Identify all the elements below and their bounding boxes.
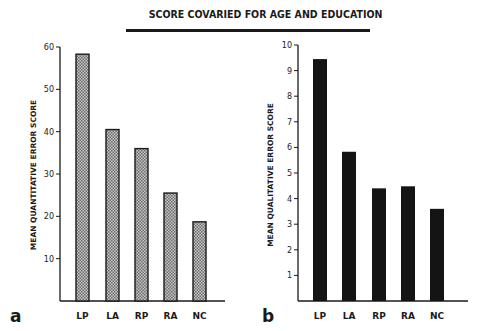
- y-axis-title-a: MEAN QUANTITATIVE ERROR SCORE: [29, 100, 38, 250]
- y-tick-label: 10: [282, 41, 292, 50]
- y-tick-label: 50: [44, 85, 54, 94]
- y-tick-label: 4: [287, 195, 292, 204]
- y-tick-label: 9: [287, 67, 292, 76]
- category-label: RA: [401, 311, 415, 321]
- y-tick-label: 40: [44, 128, 54, 137]
- bar-la: [342, 152, 356, 301]
- category-label: LA: [343, 311, 356, 321]
- y-tick-label: 8: [287, 92, 292, 101]
- y-tick-label: 1: [287, 271, 292, 280]
- category-label: NC: [430, 311, 445, 321]
- bar-ra: [164, 193, 177, 301]
- category-label: LP: [76, 311, 89, 321]
- y-tick-label: 5: [287, 169, 292, 178]
- y-axis-title-b: MEAN QUALITATIVE ERROR SCORE: [266, 103, 275, 247]
- bar-ra: [401, 186, 415, 301]
- category-label: RA: [164, 311, 178, 321]
- y-tick-label: 2: [287, 246, 292, 255]
- category-label: RP: [135, 311, 149, 321]
- category-label: LP: [314, 311, 327, 321]
- bar-rp: [372, 188, 386, 301]
- category-label: LA: [106, 311, 119, 321]
- panel-b-qualitative-chart: 12345678910 LPLARPRANC MEAN QUALITATIVE …: [262, 41, 468, 326]
- y-tick-label: 30: [44, 170, 54, 179]
- bar-rp: [135, 149, 148, 301]
- y-tick-label: 3: [287, 220, 292, 229]
- panel-letter-b: b: [262, 306, 274, 326]
- category-label: NC: [192, 311, 207, 321]
- y-tick-label: 20: [44, 212, 54, 221]
- y-tick-label: 60: [44, 43, 54, 52]
- bar-nc: [193, 222, 206, 301]
- bar-lp: [76, 54, 89, 301]
- figure-canvas: 102030405060 LPLARPRANC MEAN QUANTITATIV…: [0, 0, 478, 331]
- y-tick-label: 6: [287, 143, 292, 152]
- bar-la: [106, 130, 119, 301]
- panel-letter-a: a: [10, 306, 21, 326]
- bar-lp: [313, 59, 327, 301]
- bar-nc: [430, 209, 444, 301]
- y-tick-label: 10: [44, 255, 54, 264]
- y-tick-label: 7: [287, 118, 292, 127]
- category-label: RP: [372, 311, 386, 321]
- panel-a-quantitative-chart: 102030405060 LPLARPRANC MEAN QUANTITATIV…: [10, 43, 225, 326]
